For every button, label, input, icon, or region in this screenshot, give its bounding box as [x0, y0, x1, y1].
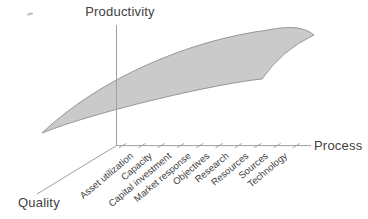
process-axis-label: Process	[314, 138, 362, 153]
productivity-quality-process-diagram: Productivity Process Quality Asset utili…	[0, 0, 368, 219]
diagram-canvas	[0, 0, 368, 219]
stray-mark	[27, 12, 33, 15]
productivity-surface	[42, 28, 314, 133]
quality-axis-label: Quality	[18, 195, 60, 210]
productivity-axis-label: Productivity	[70, 4, 170, 19]
